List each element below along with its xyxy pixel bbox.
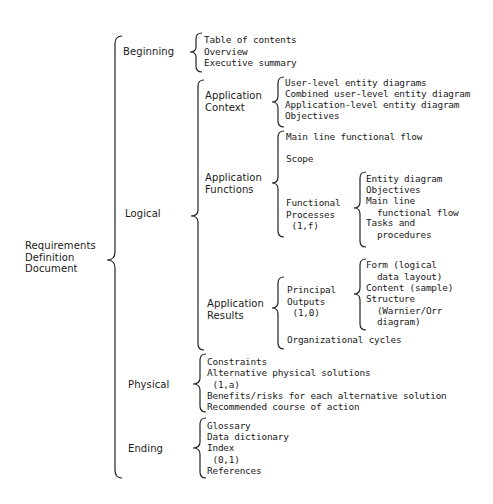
item-application-level-entity-diagram: Application-level entity diagram (285, 99, 459, 111)
subitem-structure: Structure (Warnier/Orr diagram) (366, 293, 442, 328)
subitem-main-line-functional-flow: Main line functional flow (366, 195, 459, 218)
root-label: Requirements Definition Document (25, 240, 96, 275)
group-label-app-context: Application Context (205, 90, 262, 113)
beginning-brace (190, 33, 202, 72)
group-label-app-functions: Application Functions (205, 172, 262, 195)
subitem-objectives: Objectives (366, 184, 420, 196)
results-brace (272, 277, 284, 349)
item-scope: Scope (286, 153, 313, 165)
item-constraints: Constraints (207, 356, 267, 368)
context-brace (272, 77, 284, 127)
item-overview: Overview (204, 46, 248, 58)
item-benefits-risks: Benefits/risks for each alternative solu… (207, 390, 447, 402)
item-user-level-entity-diagrams: User-level entity diagrams (285, 77, 427, 89)
item-data-dictionary: Data dictionary (207, 431, 289, 443)
item-table-of-contents: Table of contents (204, 34, 297, 46)
item-references: References (207, 465, 261, 477)
processes-brace (354, 172, 366, 247)
ending-brace (193, 418, 206, 478)
functions-brace (272, 131, 284, 237)
subitem-entity-diagram: Entity diagram (366, 173, 442, 185)
physical-brace (193, 354, 206, 412)
item-executive-summary: Executive summary (204, 57, 297, 69)
item-combined-user-level-entity-diagram: Combined user-level entity diagram (285, 88, 470, 100)
subitem-tasks-and-procedures: Tasks and procedures (366, 217, 431, 240)
item-recommended-course: Recommended course of action (207, 401, 359, 413)
group-label-app-results: Application Results (207, 298, 264, 321)
subitem-content: Content (sample) (366, 282, 453, 294)
item-organizational-cycles: Organizational cycles (287, 334, 401, 346)
section-label-physical: Physical (128, 379, 169, 391)
item-functional-processes: Functional Processes (1,f) (286, 197, 340, 232)
section-label-beginning: Beginning (123, 46, 174, 58)
item-glossary: Glossary (207, 420, 251, 432)
item-objectives: Objectives (285, 110, 339, 122)
item-main-line-functional-flow: Main line functional flow (286, 131, 422, 143)
section-label-logical: Logical (125, 208, 161, 220)
outputs-brace (354, 259, 366, 330)
item-principal-outputs: Principal Outputs (1,0) (287, 284, 336, 319)
item-alternative-physical-solutions: Alternative physical solutions (1,a) (207, 367, 370, 390)
subitem-form: Form (logical data layout) (366, 259, 442, 282)
item-index: Index (0,1) (207, 442, 240, 465)
logical-brace (191, 80, 204, 350)
section-label-ending: Ending (128, 443, 163, 455)
root-brace (107, 36, 122, 478)
